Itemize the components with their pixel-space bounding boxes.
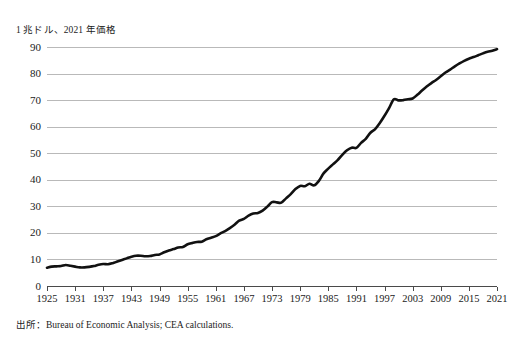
x-axis-tick <box>300 287 301 291</box>
x-axis-tick <box>441 287 442 291</box>
x-axis-tick <box>131 287 132 291</box>
y-axis-tick-label: 70 <box>11 95 41 106</box>
x-axis-tick <box>469 287 470 291</box>
y-axis-tick-labels: 9080706050403020100 <box>8 47 41 286</box>
x-axis-tick <box>385 287 386 291</box>
x-axis-tick <box>47 287 48 291</box>
source-note: 出所：Bureau of Economic Analysis; CEA calc… <box>16 319 233 331</box>
y-axis-tick-label: 60 <box>11 121 41 132</box>
x-axis-tick <box>103 287 104 291</box>
y-axis-tick-label: 0 <box>11 281 41 292</box>
x-axis-tick <box>244 287 245 291</box>
y-axis-tick-label: 90 <box>11 42 41 53</box>
y-axis-tick-label: 80 <box>11 68 41 79</box>
x-axis-tick <box>216 287 217 291</box>
x-axis-tick <box>356 287 357 291</box>
x-axis-tick <box>160 287 161 291</box>
chart-figure: 1 兆ドル、2021 年価格 9080706050403020100 19251… <box>0 0 526 345</box>
y-axis-tick-label: 40 <box>11 174 41 185</box>
x-axis-tick <box>497 287 498 291</box>
gdp-line-path <box>47 49 497 268</box>
x-axis-tick <box>328 287 329 291</box>
y-axis-tick-label: 50 <box>11 148 41 159</box>
x-axis-tick <box>75 287 76 291</box>
x-axis-tick-label: 2021 <box>477 293 517 305</box>
y-axis-tick-label: 20 <box>11 227 41 238</box>
y-axis-tick-label: 30 <box>11 201 41 212</box>
x-axis-tick <box>413 287 414 291</box>
x-axis-tick <box>188 287 189 291</box>
y-axis-unit-label: 1 兆ドル、2021 年価格 <box>16 24 116 36</box>
y-axis-tick-label: 10 <box>11 254 41 265</box>
gdp-line-series <box>47 47 497 286</box>
x-axis-tick <box>272 287 273 291</box>
